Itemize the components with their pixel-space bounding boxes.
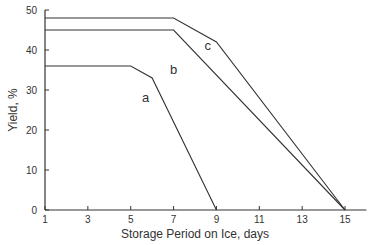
y-tick-label: 30	[26, 85, 38, 96]
x-tick-label: 5	[128, 214, 134, 225]
x-tick-label: 9	[214, 214, 220, 225]
x-tick-label: 15	[339, 214, 351, 225]
curve-label-b: b	[170, 62, 177, 77]
yield-chart: 0102030405013579111315Storage Period on …	[0, 0, 373, 245]
y-tick-label: 40	[26, 45, 38, 56]
curve-label-c: c	[205, 38, 212, 53]
series-b-line	[45, 30, 345, 210]
series-a-line	[45, 66, 216, 210]
y-tick-label: 0	[31, 205, 37, 216]
x-tick-label: 11	[254, 214, 265, 225]
y-axis-title: Yield, %	[6, 88, 20, 132]
y-tick-label: 20	[26, 125, 38, 136]
x-tick-label: 3	[85, 214, 91, 225]
y-tick-label: 10	[26, 165, 38, 176]
y-tick-label: 50	[26, 5, 38, 16]
curve-label-a: a	[142, 90, 150, 105]
x-tick-label: 13	[297, 214, 309, 225]
x-tick-label: 1	[42, 214, 48, 225]
x-tick-label: 7	[171, 214, 177, 225]
series-c-line	[45, 18, 345, 210]
x-axis-title: Storage Period on Ice, days	[121, 227, 269, 241]
